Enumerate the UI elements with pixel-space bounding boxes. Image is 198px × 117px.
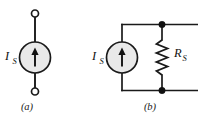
panel-b-resistor-label-sub: S	[183, 53, 188, 63]
circuit-diagram-canvas: I S (a) I	[0, 0, 198, 117]
panel-a-terminal-top-icon	[32, 10, 39, 17]
panel-a-source-label-sub: S	[13, 56, 18, 66]
panel-b: I S R S (b)	[91, 21, 198, 113]
panel-b-node-top-icon	[159, 21, 165, 27]
panel-b-source-label-main: I	[91, 49, 97, 63]
panel-a-caption: (a)	[21, 101, 34, 113]
panel-b-resistor-icon	[157, 40, 168, 75]
panel-a: I S (a)	[4, 10, 51, 113]
panel-a-source-label-main: I	[4, 49, 10, 63]
panel-b-caption: (b)	[144, 101, 157, 113]
circuit-figure: I S (a) I	[0, 0, 198, 117]
panel-b-resistor-label-main: R	[173, 46, 182, 60]
panel-a-terminal-bottom-icon	[32, 88, 39, 95]
panel-b-source-label-sub: S	[100, 56, 105, 66]
panel-b-node-bottom-icon	[159, 87, 165, 93]
